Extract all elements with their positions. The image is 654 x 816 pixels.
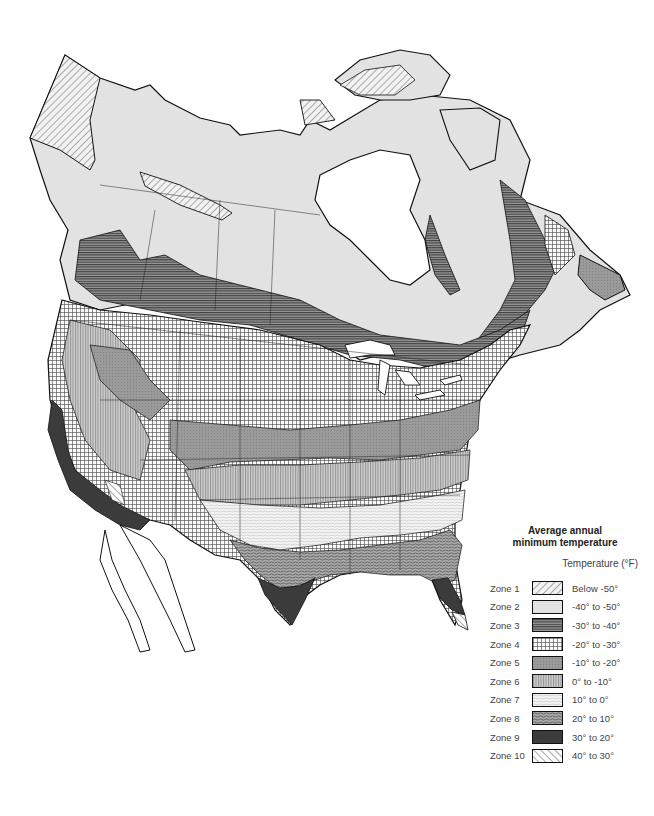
zone-label: Zone 9 xyxy=(490,732,532,743)
legend-row-zone5: Zone 5 -10° to -20° xyxy=(490,653,654,672)
legend-row-zone2: Zone 2 -40° to -50° xyxy=(490,598,654,617)
legend-title-line1: Average annual xyxy=(490,525,640,537)
zone-range: -10° to -20° xyxy=(572,657,620,668)
legend-row-zone6: Zone 6 0° to -10° xyxy=(490,672,654,691)
zone-range: -30° to -40° xyxy=(572,620,620,631)
legend-row-zone3: Zone 3 -30° to -40° xyxy=(490,616,654,635)
zone4-swatch-icon xyxy=(532,637,563,651)
zone10-swatch-icon xyxy=(532,749,563,763)
zone-range: 10° to 0° xyxy=(572,694,609,705)
legend-unit-label: Temperature (°F) xyxy=(490,558,638,569)
mexico-mainland-outline xyxy=(120,525,195,652)
zone-range: -20° to -30° xyxy=(572,639,620,650)
legend-row-zone10: Zone 10 40° to 30° xyxy=(490,746,654,765)
legend-title-line2: minimum temperature xyxy=(490,537,640,549)
zone9-swatch-icon xyxy=(532,730,563,744)
legend-row-zone8: Zone 8 20° to 10° xyxy=(490,709,654,728)
zone8-swatch-icon xyxy=(532,711,563,725)
zone-label: Zone 7 xyxy=(490,694,532,705)
zone5-swatch-icon xyxy=(532,656,563,670)
zone-label: Zone 4 xyxy=(490,639,532,650)
zone7-swatch-icon xyxy=(532,693,563,707)
zone-label: Zone 10 xyxy=(490,750,532,761)
zone-label: Zone 1 xyxy=(490,583,532,594)
zone-label: Zone 3 xyxy=(490,620,532,631)
zone1-swatch-icon xyxy=(532,581,563,595)
zone3-swatch-icon xyxy=(532,618,563,632)
zone-range: 30° to 20° xyxy=(572,732,614,743)
zone6-swatch-icon xyxy=(532,674,563,688)
legend-row-zone9: Zone 9 30° to 20° xyxy=(490,728,654,747)
legend: Average annual minimum temperature Tempe… xyxy=(490,525,654,765)
zone-range: Below -50° xyxy=(572,583,618,594)
zone-label: Zone 8 xyxy=(490,713,532,724)
zone-label: Zone 5 xyxy=(490,657,532,668)
legend-row-zone4: Zone 4 -20° to -30° xyxy=(490,635,654,654)
zone-range: 0° to -10° xyxy=(572,676,612,687)
zone-label: Zone 6 xyxy=(490,676,532,687)
baja-california-outline xyxy=(100,530,150,652)
zone2-swatch-icon xyxy=(532,600,563,614)
zone-range: -40° to -50° xyxy=(572,601,620,612)
zone-range: 20° to 10° xyxy=(572,713,614,724)
legend-row-zone7: Zone 7 10° to 0° xyxy=(490,691,654,710)
zone-label: Zone 2 xyxy=(490,601,532,612)
legend-row-zone1: Zone 1 Below -50° xyxy=(490,579,654,598)
zone-range: 40° to 30° xyxy=(572,750,614,761)
